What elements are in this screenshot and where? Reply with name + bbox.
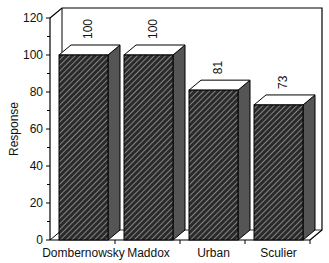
bar-value-label: 81 <box>211 60 225 74</box>
bar-front <box>254 105 303 240</box>
y-tick-label: 0 <box>36 233 43 247</box>
bar-urban: 81 <box>189 60 250 240</box>
bar-chart: 020406080100120 1001008173 DombernowskyM… <box>0 0 329 263</box>
bar-side <box>303 95 315 240</box>
x-category-label: Sculier <box>260 246 297 260</box>
bar-value-label: 100 <box>81 19 95 39</box>
x-axis-labels: DombernowskyMaddoxUrbanSculier <box>42 240 310 260</box>
bar-side <box>108 45 120 240</box>
bar-maddox: 100 <box>124 19 185 240</box>
x-category-label: Dombernowsky <box>42 246 125 260</box>
y-tick-label: 40 <box>30 159 44 173</box>
y-tick-label: 60 <box>30 122 44 136</box>
bar-side <box>173 45 185 240</box>
y-tick-label: 100 <box>23 48 43 62</box>
y-tick-label: 80 <box>30 85 44 99</box>
y-tick-label: 120 <box>23 11 43 25</box>
x-category-label: Maddox <box>127 246 170 260</box>
bar-value-label: 100 <box>146 19 160 39</box>
bar-front <box>124 55 173 240</box>
bar-value-label: 73 <box>276 75 290 89</box>
y-tick-label: 20 <box>30 196 44 210</box>
y-axis-title: Response <box>7 102 21 156</box>
bar-side <box>238 80 250 240</box>
x-category-label: Urban <box>197 246 230 260</box>
bar-front <box>189 90 238 240</box>
bars-group: 1001008173 <box>59 19 315 240</box>
bar-dombernowsky: 100 <box>59 19 120 240</box>
bar-sculier: 73 <box>254 75 315 240</box>
bar-front <box>59 55 108 240</box>
